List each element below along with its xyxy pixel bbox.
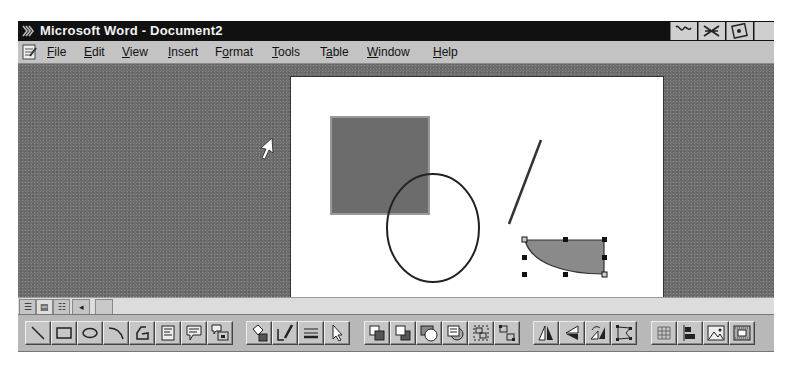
rectangle-icon bbox=[54, 323, 74, 343]
align-icon bbox=[680, 323, 700, 343]
group-button[interactable] bbox=[468, 321, 494, 345]
tray-icon-4[interactable] bbox=[754, 22, 774, 40]
horizontal-scrollbar[interactable]: ☰ ▤ ☷ ◂ bbox=[18, 297, 774, 315]
menu-edit[interactable]: Edit bbox=[84, 45, 105, 59]
tray-icon-2[interactable] bbox=[698, 22, 725, 40]
document-workspace[interactable] bbox=[18, 64, 774, 297]
drawing-toolbar bbox=[18, 314, 774, 352]
bring-in-front-of-text-button[interactable] bbox=[416, 321, 442, 345]
format-callout-icon bbox=[210, 323, 230, 343]
document-icon[interactable] bbox=[21, 44, 38, 60]
line-color-button[interactable] bbox=[272, 321, 298, 345]
arc-shape bbox=[525, 240, 604, 274]
drawing-canvas[interactable] bbox=[291, 77, 663, 299]
flip-vertical-button[interactable] bbox=[559, 321, 585, 345]
title-bar[interactable]: Microsoft Word - Document2 bbox=[18, 21, 774, 41]
menu-help[interactable]: Help bbox=[433, 45, 458, 59]
word-app-icon bbox=[21, 23, 37, 39]
text-box-icon bbox=[158, 323, 178, 343]
snap-to-grid-button[interactable] bbox=[651, 321, 677, 345]
menu-tools[interactable]: Tools bbox=[272, 45, 300, 59]
fill-color-icon bbox=[249, 323, 269, 343]
ellipse-tool-button[interactable] bbox=[77, 321, 103, 345]
ellipse-shape bbox=[387, 174, 479, 282]
flip-vertical-icon bbox=[562, 323, 582, 343]
flip-horizontal-button[interactable] bbox=[533, 321, 559, 345]
format-callout-button[interactable] bbox=[207, 321, 233, 345]
text-box-button[interactable] bbox=[155, 321, 181, 345]
line-style-button[interactable] bbox=[298, 321, 324, 345]
send-behind-text-icon bbox=[445, 323, 465, 343]
scroll-thumb[interactable] bbox=[95, 299, 113, 315]
group-icon bbox=[471, 323, 491, 343]
select-objects-button[interactable] bbox=[324, 321, 350, 345]
freeform-tool-button[interactable] bbox=[129, 321, 155, 345]
line-icon bbox=[28, 323, 48, 343]
menu-window[interactable]: Window bbox=[367, 45, 410, 59]
send-behind-text-button[interactable] bbox=[442, 321, 468, 345]
rotate-right-button[interactable] bbox=[585, 321, 611, 345]
ellipse-icon bbox=[80, 323, 100, 343]
tray-icon-3[interactable] bbox=[726, 22, 753, 40]
reshape-icon bbox=[614, 323, 634, 343]
menu-format[interactable]: Format bbox=[215, 45, 253, 59]
menu-insert[interactable]: Insert bbox=[168, 45, 198, 59]
send-to-back-button[interactable] bbox=[390, 321, 416, 345]
menu-file[interactable]: File bbox=[47, 45, 66, 59]
bring-in-front-of-text-icon bbox=[419, 323, 439, 343]
grid-icon bbox=[654, 323, 674, 343]
arrow-pointer-icon bbox=[327, 323, 347, 343]
freeform-icon bbox=[132, 323, 152, 343]
document-page[interactable] bbox=[290, 76, 664, 299]
callout-icon bbox=[184, 323, 204, 343]
insert-frame-button[interactable] bbox=[729, 321, 755, 345]
normal-view-button[interactable]: ☰ bbox=[19, 299, 36, 315]
outline-view-button[interactable]: ☷ bbox=[53, 299, 70, 315]
line-shape bbox=[509, 140, 541, 224]
page-layout-view-button[interactable]: ▤ bbox=[36, 299, 53, 315]
rotate-right-icon bbox=[588, 323, 608, 343]
line-style-icon bbox=[301, 323, 321, 343]
reshape-button[interactable] bbox=[611, 321, 637, 345]
menu-bar: File Edit View Insert Format Tools Table… bbox=[18, 41, 774, 64]
rectangle-tool-button[interactable] bbox=[51, 321, 77, 345]
ungroup-icon bbox=[497, 323, 517, 343]
bring-to-front-icon bbox=[367, 323, 387, 343]
tray-icon-1[interactable] bbox=[670, 22, 697, 40]
create-picture-button[interactable] bbox=[703, 321, 729, 345]
bring-to-front-button[interactable] bbox=[364, 321, 390, 345]
align-objects-button[interactable] bbox=[677, 321, 703, 345]
line-color-icon bbox=[275, 323, 295, 343]
ungroup-button[interactable] bbox=[494, 321, 520, 345]
picture-icon bbox=[706, 323, 726, 343]
word-window: Microsoft Word - Document2 File Edit Vie… bbox=[18, 21, 774, 352]
arc-tool-button[interactable] bbox=[103, 321, 129, 345]
frame-icon bbox=[732, 323, 752, 343]
mouse-pointer-icon bbox=[258, 137, 276, 163]
callout-button[interactable] bbox=[181, 321, 207, 345]
window-title: Microsoft Word - Document2 bbox=[40, 23, 223, 38]
menu-view[interactable]: View bbox=[122, 45, 148, 59]
scroll-left-button[interactable]: ◂ bbox=[72, 299, 90, 315]
arc-icon bbox=[106, 323, 126, 343]
fill-color-button[interactable] bbox=[246, 321, 272, 345]
flip-horizontal-icon bbox=[536, 323, 556, 343]
send-to-back-icon bbox=[393, 323, 413, 343]
rectangle-shape bbox=[331, 117, 429, 214]
line-tool-button[interactable] bbox=[25, 321, 51, 345]
menu-table[interactable]: Table bbox=[320, 45, 349, 59]
